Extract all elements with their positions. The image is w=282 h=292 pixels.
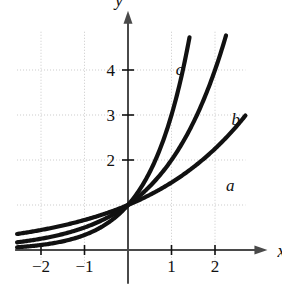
curve-a <box>17 116 245 234</box>
curves-group <box>17 35 245 247</box>
gridlines-group <box>17 32 245 266</box>
x-axis-label: x <box>276 241 282 261</box>
x-axis-arrowhead <box>254 246 267 255</box>
y-axis-label: y <box>113 0 123 10</box>
y-tick-label: 3 <box>107 106 116 125</box>
curve-label-a: a <box>226 176 235 195</box>
curve-label-c: c <box>176 60 184 79</box>
labels-group: xyabc <box>113 0 282 261</box>
curve-label-b: b <box>232 110 241 129</box>
x-tick-label: −1 <box>75 257 93 276</box>
chart-canvas: −2−112234 xyabc <box>0 0 282 292</box>
y-tick-label: 4 <box>107 61 116 80</box>
x-tick-label: 2 <box>211 257 220 276</box>
x-tick-label: 1 <box>167 257 176 276</box>
y-tick-label: 2 <box>107 151 116 170</box>
y-axis-arrowhead <box>124 11 133 24</box>
x-tick-label: −2 <box>32 257 50 276</box>
exponential-curves-figure: −2−112234 xyabc <box>0 0 282 292</box>
